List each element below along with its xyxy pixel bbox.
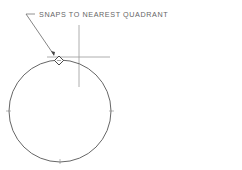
quadrant-snap-diagram: SNAPS TO NEAREST QUADRANT xyxy=(0,0,242,170)
leader-arrowhead-icon xyxy=(51,51,55,56)
circle-object xyxy=(9,60,111,162)
annotation-text: SNAPS TO NEAREST QUADRANT xyxy=(39,10,168,19)
leader-line xyxy=(26,14,54,55)
